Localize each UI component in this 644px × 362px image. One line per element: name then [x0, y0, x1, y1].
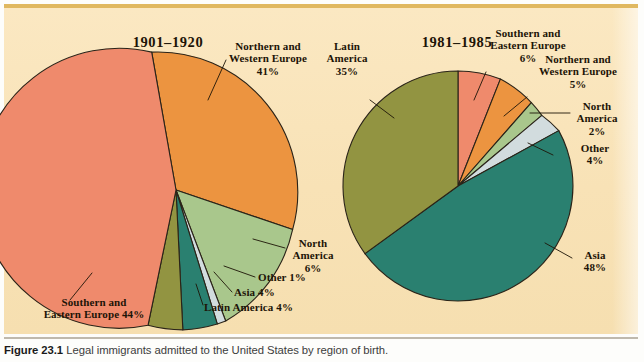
right-label-latin-america: Latin America 35%: [316, 40, 378, 77]
figure-page: 1901–1920 Northern and Western Europe 41…: [0, 0, 644, 362]
figure-caption: Figure 23.1 Legal immigrants admitted to…: [4, 344, 640, 356]
left-label-north-america: North America 6%: [278, 237, 348, 274]
left-label-southern-eastern-europe: Southern and Eastern Europe 44%: [12, 296, 176, 321]
left-label-asia: Asia 4%: [234, 286, 314, 298]
figure-caption-text: Legal immigrants admitted to the United …: [66, 344, 388, 356]
caption-rule: [4, 337, 638, 339]
right-label-north-america: North America 2%: [566, 100, 628, 137]
left-label-latin-america: Latin America 4%: [204, 301, 334, 313]
right-label-other: Other 4%: [566, 142, 624, 167]
figure-number: Figure 23.1: [4, 344, 63, 356]
left-label-northern-western-europe: Northern and Western Europe 41%: [210, 40, 326, 77]
right-label-asia: Asia 48%: [566, 249, 624, 274]
left-slice-southern-eastern-europe: [0, 48, 176, 328]
right-label-northern-western-europe: Northern and Western Europe 5%: [528, 53, 628, 90]
left-label-other: Other 1%: [258, 271, 338, 283]
